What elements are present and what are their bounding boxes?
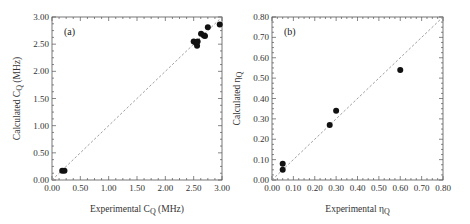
- panel-label: (a): [64, 26, 75, 38]
- data-point: [280, 167, 286, 173]
- data-point: [202, 33, 208, 39]
- x-tick-label: 2.00: [157, 183, 173, 193]
- y-tick-label: 0.70: [253, 32, 269, 42]
- y-tick-label: 0.40: [253, 94, 269, 104]
- y-tick-label: 0.00: [33, 175, 49, 185]
- x-tick-label: 0.60: [392, 183, 408, 193]
- x-tick-label: 2.50: [186, 183, 202, 193]
- y-tick-label: 2.50: [33, 39, 49, 49]
- x-tick-label: 0.40: [350, 183, 366, 193]
- scatter-panel-b: 0.000.100.200.300.400.500.600.700.800.00…: [232, 12, 451, 216]
- y-tick-label: 0.50: [253, 73, 269, 83]
- panel-label: (b): [284, 26, 296, 38]
- x-tick-label: 0.70: [414, 183, 430, 193]
- data-point: [61, 168, 67, 174]
- data-point: [397, 67, 403, 73]
- data-point: [333, 108, 339, 114]
- y-tick-label: 3.00: [33, 12, 49, 22]
- y-tick-label: 0.50: [33, 148, 49, 158]
- y-tick-label: 0.30: [253, 114, 269, 124]
- x-tick-label: 0.10: [286, 183, 302, 193]
- data-point: [327, 122, 333, 128]
- reference-line: [272, 17, 443, 180]
- y-tick-label: 0.00: [253, 175, 269, 185]
- x-tick-label: 1.00: [101, 183, 117, 193]
- data-point: [280, 161, 286, 167]
- y-axis-label: Calculated ηQ: [232, 71, 244, 125]
- x-axis-label: Experimental CQ (MHz): [90, 204, 184, 216]
- y-tick-label: 0.80: [253, 12, 269, 22]
- data-point: [217, 22, 223, 28]
- x-tick-label: 0.80: [435, 183, 451, 193]
- y-tick-label: 1.50: [33, 94, 49, 104]
- figure: 0.000.501.001.502.002.503.000.000.501.00…: [0, 0, 470, 224]
- y-tick-label: 0.10: [253, 155, 269, 165]
- data-point: [205, 24, 211, 30]
- x-axis-label: Experimental ηQ: [325, 204, 390, 216]
- x-tick-label: 1.50: [129, 183, 145, 193]
- y-tick-label: 0.20: [253, 134, 269, 144]
- x-tick-label: 0.50: [371, 183, 387, 193]
- x-tick-label: 0.50: [72, 183, 88, 193]
- y-tick-label: 0.60: [253, 53, 269, 63]
- x-tick-label: 0.20: [307, 183, 323, 193]
- data-point: [195, 38, 201, 44]
- y-axis-label: Calculated CQ (MHz): [12, 57, 24, 140]
- y-tick-label: 1.00: [33, 121, 49, 131]
- y-tick-label: 2.00: [33, 66, 49, 76]
- x-tick-label: 3.00: [214, 183, 230, 193]
- x-tick-label: 0.30: [328, 183, 344, 193]
- scatter-panel-a: 0.000.501.001.502.002.503.000.000.501.00…: [12, 12, 230, 216]
